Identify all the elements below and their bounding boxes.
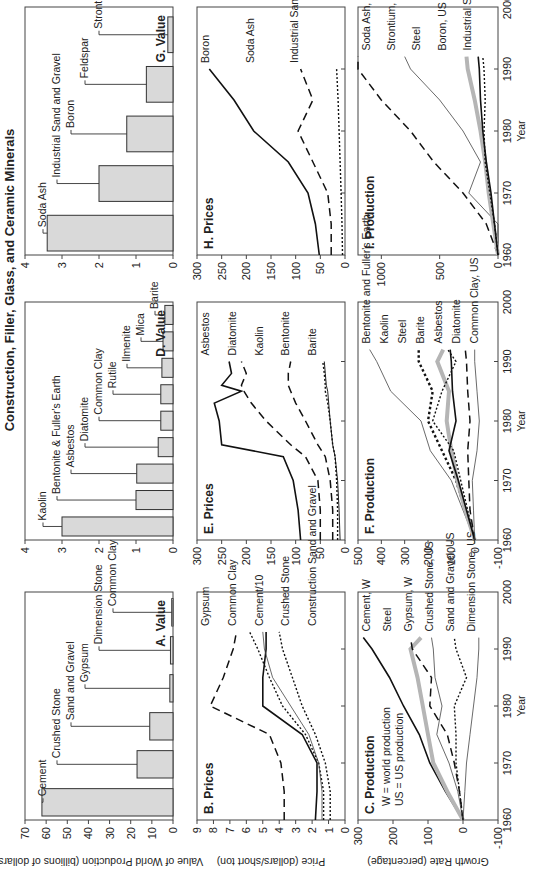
bar-gypsum	[170, 675, 173, 702]
bar-feldspar	[146, 66, 173, 102]
y-tick-label: 1	[130, 262, 142, 268]
x-axis-label: Year	[515, 120, 527, 142]
y-tick-label: 3	[290, 827, 302, 833]
bar-label: Ilmenite	[120, 325, 132, 362]
y-tick-label: 6	[240, 827, 252, 833]
series-asbestos	[214, 362, 300, 541]
series-boron	[209, 69, 319, 255]
y-tick-label: 50	[314, 547, 326, 559]
bar-label: Gypsum	[78, 643, 90, 682]
y-tick-label: 2	[93, 262, 105, 268]
panel-title: F. Production	[363, 458, 377, 534]
y-tick-label: 100	[290, 547, 302, 565]
series-label: Boron	[199, 35, 211, 63]
x-tick-label: 1990	[501, 349, 513, 373]
bar-ilmenite	[162, 358, 173, 377]
bar-label: Cement	[36, 759, 48, 796]
y-tick-label: 1	[323, 827, 335, 833]
x-tick-label: 1970	[501, 468, 513, 492]
bar-bentonite-fuller-s-earth	[136, 491, 173, 510]
series-label: Bentonite	[279, 311, 291, 356]
x-tick-label: 1960	[501, 243, 513, 267]
series-label: Barite	[306, 328, 318, 356]
y-tick-label: 200	[240, 262, 252, 280]
y-tick-label: 4	[19, 262, 31, 268]
series-crushed-stone	[263, 632, 322, 820]
bar-label: Rutile	[106, 361, 118, 388]
y-tick-label: 100	[445, 547, 457, 565]
series-steel	[411, 638, 464, 820]
y-tick-label: 50	[61, 827, 73, 839]
series-label: Soda Ash	[244, 18, 256, 63]
y-tick-label: 3	[56, 262, 68, 268]
bar-label: Feldspar	[78, 37, 90, 78]
y-tick-label: 0	[167, 262, 179, 268]
bar-label: Common Clay	[106, 539, 118, 606]
bar-label: Barite	[148, 281, 160, 309]
panel-I: 0500100019601970198019902000YearSoda Ash…	[358, 0, 527, 286]
x-tick-label: 1980	[501, 119, 513, 143]
bar-label: Boron	[64, 100, 76, 128]
panel-title: D. Value	[154, 310, 168, 357]
panel-note: W = world production	[380, 707, 392, 806]
x-tick-label: 1960	[501, 808, 513, 832]
panel-C: -1000100200300Growth Rate (percentage)19…	[352, 531, 527, 868]
bar-soda-ash	[47, 215, 173, 251]
series-label: Strontium, W	[385, 0, 397, 51]
series-label: Soda Ash, W	[360, 0, 372, 51]
series-label: Gypsum	[199, 587, 211, 626]
y-tick-label: 4	[19, 547, 31, 553]
series-label: Cement, W	[360, 579, 372, 632]
y-tick-label: 70	[19, 827, 31, 839]
bar-label: Diatomite	[78, 397, 90, 442]
bar-label: Asbestos	[64, 424, 76, 467]
series-common-clay-us	[472, 350, 479, 540]
bar-label: Kaolin	[36, 491, 48, 520]
panel-D: 01234KaolinBentonite & Fuller's EarthAsb…	[19, 281, 179, 553]
x-tick-label: 1970	[501, 751, 513, 775]
series-label: Common Clay	[226, 559, 238, 626]
y-tick-label: 50	[314, 262, 326, 274]
series-industrial-sand-and-gravel	[337, 69, 343, 255]
panel-title: C. Production	[363, 735, 377, 814]
series-label: Industrial Sand and Gravel	[288, 0, 300, 63]
panel-title: A. Value	[154, 600, 168, 647]
series-label: Steel	[381, 608, 393, 632]
bar-label: Dimension Stone	[92, 564, 104, 644]
panel-E: 050100150200250300AsbestosDiatomiteKaoli…	[191, 302, 351, 565]
series-construction-sand-and-gravel	[279, 632, 330, 820]
mineral-figure: Construction, Filler, Glass, and Ceramic…	[0, 0, 535, 870]
y-tick-label: 500	[352, 547, 364, 565]
panel-H: 050100150200250300BoronSoda AshIndustria…	[191, 0, 351, 280]
y-tick-label: 300	[191, 547, 203, 565]
y-axis-label: Price (dollars/short ton)	[217, 856, 326, 868]
series-soda-ash	[298, 69, 331, 255]
x-tick-label: 1970	[501, 181, 513, 205]
series-dimension-stone-us	[463, 638, 479, 820]
y-tick-label: 2	[93, 547, 105, 553]
y-tick-label: 0	[167, 547, 179, 553]
y-tick-label: 7	[224, 827, 236, 833]
series-label: Kaolin	[378, 314, 390, 343]
y-tick-label: 300	[399, 547, 411, 565]
series-label: Gypsum, W	[402, 577, 414, 632]
y-tick-label: 3	[56, 547, 68, 553]
series-label: Steel	[396, 320, 408, 344]
x-tick-label: 2000	[501, 290, 513, 314]
bar-label: Crushed Stone	[50, 688, 62, 758]
panel-title: E. Prices	[202, 483, 216, 534]
series-bentonite-and-fuller-s-earth	[370, 350, 475, 540]
y-axis-label: Growth Rate (percentage)	[367, 856, 488, 868]
x-tick-label: 2000	[501, 0, 513, 19]
y-tick-label: 2	[306, 827, 318, 833]
y-tick-label: 300	[352, 827, 364, 845]
y-tick-label: 100	[422, 827, 434, 845]
series-label: Steel	[410, 27, 422, 51]
bar-crushed-stone	[137, 751, 173, 778]
bar-label: Common Clay	[92, 347, 104, 414]
series-label: Boron, US	[436, 2, 448, 50]
bar-strontium	[168, 17, 173, 53]
x-tick-label: 1960	[501, 528, 513, 552]
bar-label: Strontium	[92, 0, 104, 29]
panel-title: I. Production	[363, 176, 377, 249]
